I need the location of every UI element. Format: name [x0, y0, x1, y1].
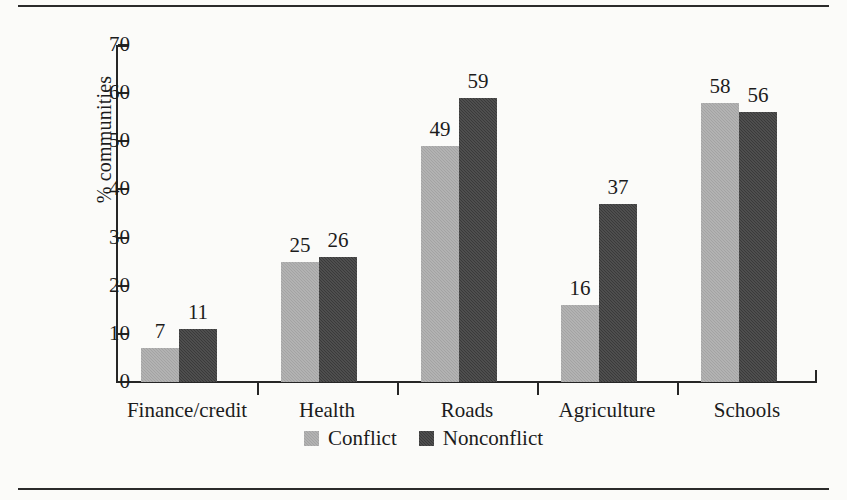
- y-axis-tick-label: 40: [86, 178, 130, 199]
- legend-item-conflict[interactable]: Conflict: [304, 428, 397, 449]
- bar-group: [319, 45, 357, 382]
- bar-value-label: 59: [449, 71, 507, 92]
- y-axis-tick-label: 50: [86, 130, 130, 151]
- bar-group: [281, 45, 319, 382]
- bar-group: [179, 45, 217, 382]
- legend-label-nonconflict: Nonconflict: [443, 428, 543, 449]
- x-axis-tick: [537, 383, 539, 395]
- x-axis-tick: [677, 383, 679, 395]
- light-gray-square-icon: [304, 431, 319, 446]
- bar-nonconflict-health[interactable]: [319, 257, 357, 382]
- bar-value-label: 37: [589, 177, 647, 198]
- x-axis-tick: [397, 383, 399, 395]
- bar-group: [561, 45, 599, 382]
- y-axis-tick-label: 0: [86, 371, 130, 392]
- y-axis-tick-label: 60: [86, 82, 130, 103]
- bar-conflict-health[interactable]: [281, 262, 319, 382]
- y-axis-tick-label: 20: [86, 275, 130, 296]
- bar-group: [459, 45, 497, 382]
- bar-group: [421, 45, 459, 382]
- chart-legend: Conflict Nonconflict: [0, 428, 847, 449]
- x-axis-category-label: Schools: [657, 398, 837, 423]
- dark-gray-square-icon: [419, 431, 434, 446]
- figure-top-rule: [18, 5, 829, 7]
- bar-conflict-agriculture[interactable]: [561, 305, 599, 382]
- bar-conflict-finance-credit[interactable]: [141, 348, 179, 382]
- bar-nonconflict-roads[interactable]: [459, 98, 497, 382]
- bar-value-label: 11: [169, 302, 227, 323]
- y-axis-tick-label: 70: [86, 34, 130, 55]
- bar-nonconflict-agriculture[interactable]: [599, 204, 637, 382]
- x-axis-end-cap: [815, 370, 817, 383]
- legend-label-conflict: Conflict: [328, 428, 397, 449]
- y-axis-tick-label: 10: [86, 323, 130, 344]
- x-axis-tick: [257, 383, 259, 395]
- bar-conflict-schools[interactable]: [701, 103, 739, 382]
- bar-group: [599, 45, 637, 382]
- bar-nonconflict-finance-credit[interactable]: [179, 329, 217, 382]
- bar-conflict-roads[interactable]: [421, 146, 459, 382]
- figure-bottom-rule: [18, 488, 829, 490]
- legend-item-nonconflict[interactable]: Nonconflict: [419, 428, 543, 449]
- bar-value-label: 56: [729, 85, 787, 106]
- figure-container: % communities 010203040506070 711Finance…: [0, 0, 847, 500]
- bar-nonconflict-schools[interactable]: [739, 112, 777, 382]
- y-axis-tick-label: 30: [86, 227, 130, 248]
- bar-value-label: 26: [309, 230, 367, 251]
